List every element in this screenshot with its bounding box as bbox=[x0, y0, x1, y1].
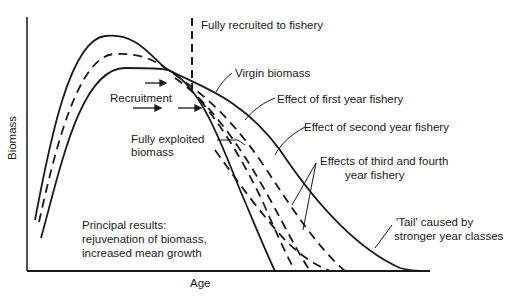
third-year-fishery-curve bbox=[200, 100, 295, 271]
y-axis-label: Biomass bbox=[6, 116, 18, 160]
fully-exploited-label: Fully exploited bbox=[131, 132, 205, 146]
fully-recruited-label: Fully recruited to fishery bbox=[201, 18, 323, 32]
biomass-age-diagram bbox=[0, 0, 505, 299]
fully-exploited-label-2: biomass bbox=[131, 145, 174, 159]
third-fourth-year-label-2: year fishery bbox=[345, 168, 404, 182]
third-fourth-year-label: Effects of third and fourth bbox=[320, 154, 448, 168]
principal-results-label: Principal results: bbox=[82, 218, 166, 232]
virgin-biomass-label: Virgin biomass bbox=[235, 66, 310, 80]
second-year-label: Effect of second year fishery bbox=[304, 120, 449, 134]
tail-label-2: stronger year classes bbox=[394, 229, 503, 243]
first-year-label: Effect of first year fishery bbox=[277, 92, 403, 106]
principal-results-label-2: rejuvenation of biomass, bbox=[82, 232, 207, 246]
tail-label: 'Tail' caused by bbox=[396, 215, 473, 229]
principal-results-label-3: increased mean growth bbox=[82, 246, 202, 260]
x-axis-label: Age bbox=[190, 276, 210, 290]
recruitment-label: Recruitment bbox=[110, 91, 172, 105]
